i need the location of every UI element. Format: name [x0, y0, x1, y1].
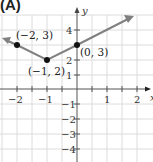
- x-tick-label: 2: [134, 94, 140, 105]
- y-axis-arrow-icon: [75, 7, 80, 13]
- y-tick-label: −4: [61, 144, 76, 155]
- point-label: (−2, 3): [16, 29, 53, 41]
- y-tick-label: −1: [61, 99, 76, 110]
- right-arrow-icon: [124, 15, 134, 23]
- graph: y x −2 −1 1 2 4 2 1 −1 −2 −3 −4 (−2, 3) …: [0, 0, 153, 162]
- x-axis-letter: x: [150, 92, 153, 103]
- point-neg1-2: [44, 57, 50, 63]
- point-label: (−1, 2): [28, 65, 65, 77]
- y-tick-label: −2: [61, 114, 76, 125]
- y-tick-label: −3: [61, 129, 76, 140]
- left-arrow-icon: [2, 37, 11, 44]
- x-tick-label: −2: [8, 94, 23, 105]
- x-axis-arrow-icon: [145, 87, 151, 92]
- x-tick-label: 1: [104, 94, 110, 105]
- x-tick-label: −1: [38, 94, 53, 105]
- point-neg2-3: [14, 42, 20, 48]
- y-tick-label: 2: [66, 55, 72, 66]
- y-tick-label: 4: [66, 25, 72, 36]
- y-tick-label: 1: [66, 70, 72, 81]
- y-axis-letter: y: [81, 5, 88, 16]
- point-label: (0, 3): [80, 46, 108, 58]
